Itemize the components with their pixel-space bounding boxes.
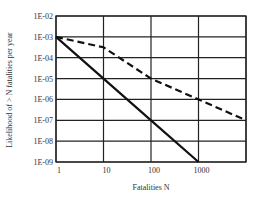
y-axis-ticks: 1E-021E-031E-041E-051E-061E-071E-081E-09 (33, 12, 53, 167)
y-tick-label: 1E-06 (33, 95, 53, 104)
x-axis-ticks: 1101001000 (57, 166, 210, 175)
y-tick-label: 1E-05 (33, 75, 53, 84)
x-tick-label: 100 (148, 166, 160, 175)
y-axis-label: Likelihood of > N fatalities per year (5, 32, 14, 148)
x-axis-label: Fatalities N (132, 183, 169, 192)
y-tick-label: 1E-03 (33, 33, 53, 42)
x-tick-label: 1000 (194, 166, 210, 175)
fn-curve-chart: 1E-021E-031E-041E-051E-061E-071E-081E-09… (0, 0, 254, 202)
y-tick-label: 1E-02 (33, 12, 53, 21)
x-tick-label: 1 (57, 166, 61, 175)
x-tick-label: 10 (103, 166, 111, 175)
y-tick-label: 1E-07 (33, 116, 53, 125)
y-tick-label: 1E-08 (33, 137, 53, 146)
y-tick-label: 1E-04 (33, 54, 53, 63)
y-tick-label: 1E-09 (33, 158, 53, 167)
grid-lines (56, 16, 246, 162)
